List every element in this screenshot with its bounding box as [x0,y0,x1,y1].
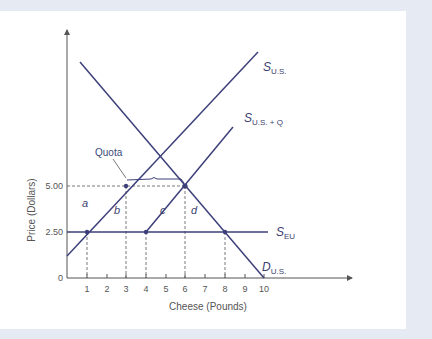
quota-label: Quota [95,147,123,158]
label-s-eu: SEU [276,225,295,241]
area-label-a: a [82,197,88,209]
label-s-us: SU.S. [263,60,287,76]
x-tick-2: 2 [104,284,109,294]
x-tick-9: 9 [242,284,247,294]
quota-chart: 1 2 3 4 5 6 7 8 9 10 0 2.50 5.00 Cheese … [0,0,432,339]
y-tick-500: 5.00 [45,181,63,191]
y-axis-title: Price (Dollars) [26,178,37,241]
curve-d-us [80,62,264,278]
x-axis-title: Cheese (Pounds) [169,301,247,312]
area-label-b: b [114,204,120,216]
label-s-us-q: SU.S. + Q [244,111,283,127]
x-tick-labels: 1 2 3 4 5 6 7 8 9 10 [84,284,269,294]
x-tick-3: 3 [123,284,128,294]
x-tick-8: 8 [222,284,227,294]
x-tick-4: 4 [143,284,148,294]
area-label-d: d [191,204,198,216]
area-label-c: c [160,204,166,216]
y-tick-250: 2.50 [45,227,63,237]
label-d-us: DU.S. [262,260,286,276]
y-tick-0: 0 [58,273,63,283]
x-tick-5: 5 [163,284,168,294]
x-tick-7: 7 [202,284,207,294]
y-tick-labels: 0 2.50 5.00 [45,181,63,283]
x-ticks [87,274,264,278]
quota-pointer [113,159,126,178]
x-tick-1: 1 [84,284,89,294]
x-tick-6: 6 [182,284,187,294]
x-tick-10: 10 [259,284,269,294]
